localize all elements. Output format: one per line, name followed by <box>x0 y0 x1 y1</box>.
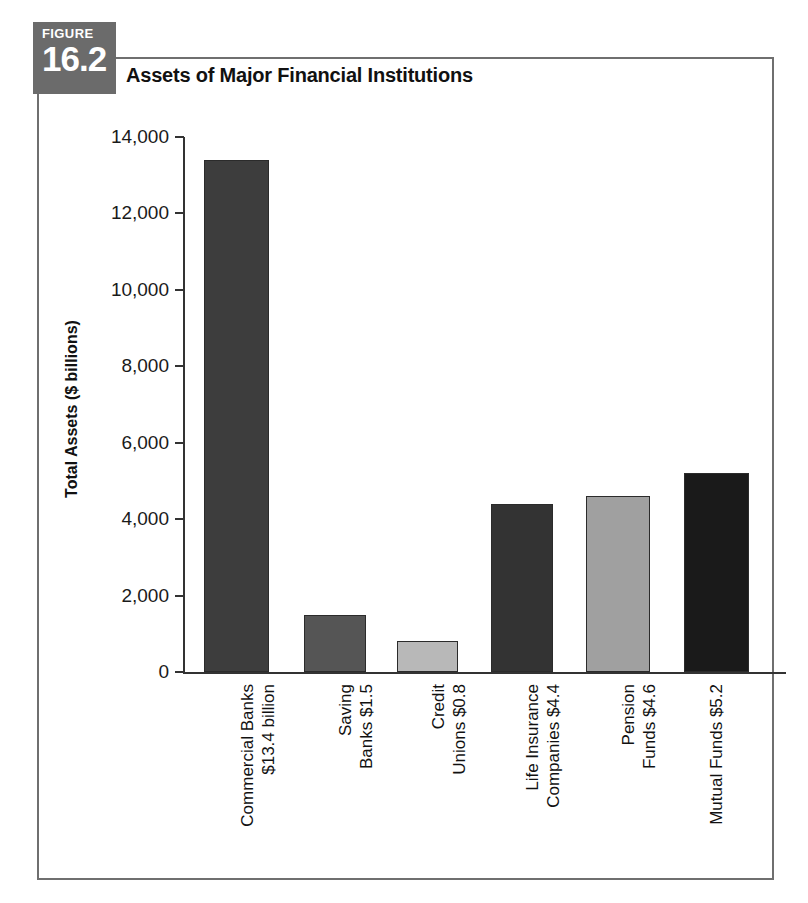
x-axis-label-line: Companies $4.4 <box>543 684 564 884</box>
bar <box>491 504 553 672</box>
y-tick-label: 14,000 <box>111 127 169 146</box>
y-tick-label: 8,000 <box>121 356 169 375</box>
x-axis-label-line: Funds $4.6 <box>639 684 660 884</box>
x-axis-label-line: $13.4 billion <box>258 684 279 884</box>
y-tick-mark <box>175 365 184 367</box>
y-tick-label: 2,000 <box>121 586 169 605</box>
x-axis-label: Commercial Banks$13.4 billion <box>237 684 279 884</box>
bar <box>684 473 749 672</box>
y-tick-label: 4,000 <box>121 509 169 528</box>
y-tick-label: 6,000 <box>121 433 169 452</box>
figure-root: FIGURE 16.2 Assets of Major Financial In… <box>0 0 808 903</box>
x-axis-label-line: Credit <box>428 684 449 884</box>
x-axis-label-line: Banks $1.5 <box>356 684 377 884</box>
bar <box>304 615 366 672</box>
chart-plot-area: Total Assets ($ billions) 02,0004,0006,0… <box>0 0 808 903</box>
figure-badge-number: 16.2 <box>42 39 116 79</box>
x-axis-label-line: Pension <box>618 684 639 884</box>
y-axis-title: Total Assets ($ billions) <box>63 279 81 539</box>
y-tick-mark <box>175 136 184 138</box>
bar <box>397 641 458 672</box>
y-tick-mark <box>175 595 184 597</box>
bar <box>204 160 269 672</box>
x-axis-label: CreditUnions $0.8 <box>428 684 470 884</box>
y-tick-mark <box>175 289 184 291</box>
y-tick-label: 0 <box>158 662 169 681</box>
x-axis-label: Life InsuranceCompanies $4.4 <box>522 684 564 884</box>
y-tick-mark <box>175 518 184 520</box>
figure-title: Assets of Major Financial Institutions <box>126 64 473 87</box>
figure-number-badge: FIGURE 16.2 <box>33 22 116 94</box>
x-axis-label: Mutual Funds $5.2 <box>706 684 727 884</box>
title-rule <box>116 57 774 59</box>
y-tick-label: 10,000 <box>111 280 169 299</box>
y-tick-mark <box>175 212 184 214</box>
y-tick-mark <box>175 671 184 673</box>
x-axis-label-line: Mutual Funds $5.2 <box>706 684 727 884</box>
x-axis-line <box>183 672 786 674</box>
x-axis-label-line: Unions $0.8 <box>449 684 470 884</box>
y-axis-line <box>183 137 185 674</box>
x-axis-label: SavingBanks $1.5 <box>335 684 377 884</box>
x-axis-label-line: Commercial Banks <box>237 684 258 884</box>
x-axis-label-line: Life Insurance <box>522 684 543 884</box>
bar <box>586 496 650 672</box>
y-tick-label: 12,000 <box>111 203 169 222</box>
y-tick-mark <box>175 442 184 444</box>
x-axis-label: PensionFunds $4.6 <box>618 684 660 884</box>
x-axis-label-line: Saving <box>335 684 356 884</box>
